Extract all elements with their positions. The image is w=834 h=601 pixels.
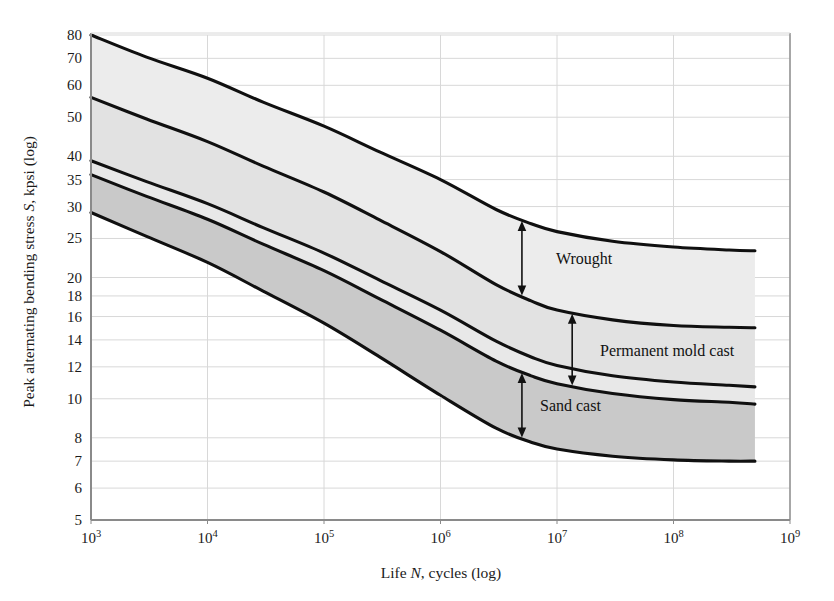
annotation-label: Wrought [556,250,613,268]
sn-curve-chart: 103104105106107108109 567810121416182025… [0,0,834,601]
annotation-label: Sand cast [540,397,601,414]
y-tick-label: 50 [67,109,82,125]
y-tick-label: 18 [67,288,82,304]
y-tick-label: 10 [67,391,82,407]
y-tick-label: 25 [67,230,82,246]
y-tick-label: 80 [67,27,82,43]
y-tick-label: 60 [67,77,82,93]
y-tick-label: 12 [67,359,82,375]
figure-root: 103104105106107108109 567810121416182025… [0,0,834,601]
y-tick-label: 14 [67,332,83,348]
y-tick-label: 7 [75,453,83,469]
y-tick-label: 8 [75,430,83,446]
annotation-label: Permanent mold cast [600,342,735,359]
y-axis-title: Peak alternating bending stress S, kpsi … [20,136,38,408]
y-tick-label: 40 [67,148,82,164]
y-tick-label: 20 [67,270,82,286]
y-tick-label: 35 [67,172,82,188]
y-tick-label: 70 [67,50,82,66]
y-tick-label: 16 [67,309,83,325]
x-axis-title: Life N, cycles (log) [381,564,502,582]
y-tick-label: 5 [75,512,83,528]
y-tick-label: 6 [75,480,83,496]
y-tick-label: 30 [67,199,82,215]
